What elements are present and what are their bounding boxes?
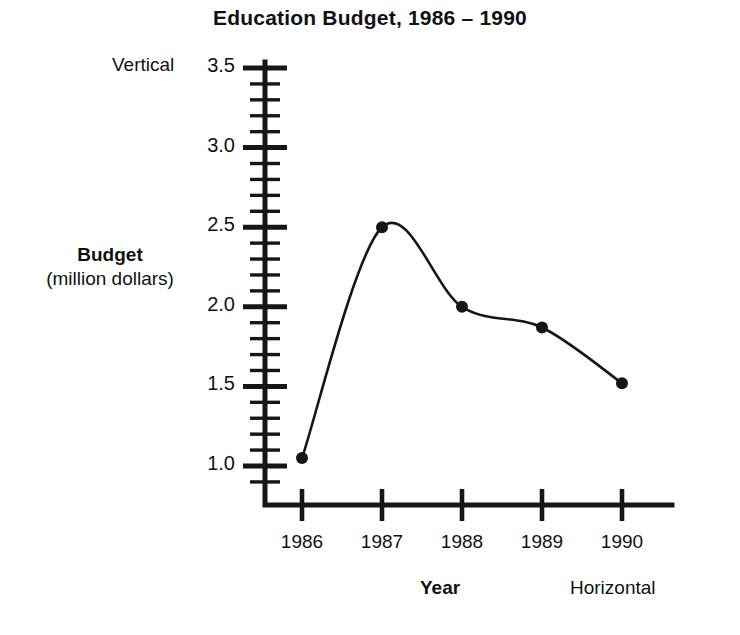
y-axis-units: (million dollars) [0,268,220,290]
y-tick-label: 1.0 [115,452,235,475]
x-axis-title: Year [420,577,460,599]
y-tick-group [243,68,287,482]
data-point-1990 [616,377,628,389]
x-tick-label: 1989 [497,531,587,553]
axis-lines [265,62,672,505]
vertical-axis-note: Vertical [112,54,174,76]
data-point-1986 [296,452,308,464]
data-point-1989 [536,321,548,333]
x-tick-label: 1988 [417,531,507,553]
x-tick-label: 1986 [257,531,347,553]
axes-group [265,62,672,505]
x-tick-label: 1990 [577,531,667,553]
y-axis-title: Budget [0,244,220,266]
data-point-1988 [456,301,468,313]
y-tick-label: 2.5 [115,213,235,236]
y-tick-label: 2.0 [115,293,235,316]
horizontal-axis-note: Horizontal [570,577,656,599]
x-tick-label: 1987 [337,531,427,553]
budget-line-series [302,223,622,458]
chart-container: Education Budget, 1986 – 1990 1.01.52.02… [0,0,740,635]
data-point-markers [296,221,628,464]
y-tick-label: 1.5 [115,372,235,395]
y-tick-label: 3.0 [115,134,235,157]
data-point-1987 [376,221,388,233]
